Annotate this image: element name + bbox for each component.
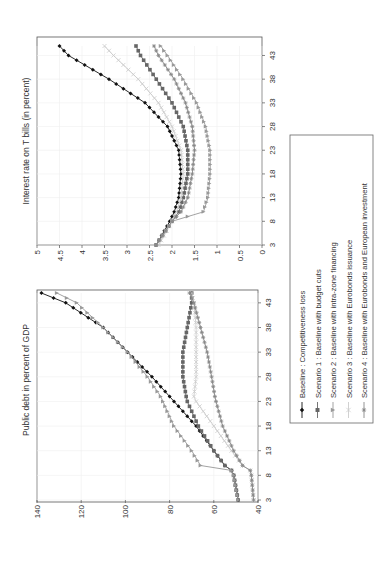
debt-chart-title: Public debt in percent of GDP: [21, 324, 31, 436]
legend-label: Scenario 2 : Baseline with intra-zone fi…: [329, 242, 338, 398]
period-tick-label: 18: [268, 169, 277, 178]
period-tick-label: 33: [264, 347, 273, 356]
period-tick-label: 28: [264, 372, 273, 381]
value-tick-label: 5: [33, 249, 42, 254]
legend-item: Scenario 3 : Baseline with Eurobonds iss…: [345, 240, 354, 418]
period-tick-label: 33: [268, 98, 277, 107]
period-tick-label: 3: [264, 497, 273, 502]
period-tick-label: 28: [268, 122, 277, 131]
interest-value-ticks: 00.511.522.533.544.55: [33, 245, 267, 261]
period-tick-label: 8: [268, 219, 277, 224]
figure: 00.511.522.533.544.55 3813182328333843 I…: [0, 0, 389, 573]
legend-item: Scenario 1 : Baseline with budget cuts: [314, 269, 323, 418]
legend-item: Baseline : Competitiveness loss: [298, 291, 307, 418]
period-tick-label: 23: [268, 145, 277, 154]
legend: Baseline : Competitiveness lossScenario …: [290, 135, 373, 423]
legend-label: Baseline : Competitiveness loss: [298, 291, 307, 398]
debt-period-ticks: 3813182328333843: [258, 298, 273, 502]
public-debt-chart: 406080100120140 3813182328333843 Public …: [21, 290, 273, 518]
period-tick-label: 43: [264, 298, 273, 307]
value-tick-label: 3.5: [101, 249, 110, 261]
value-tick-label: 1: [213, 249, 222, 254]
value-tick-label: 4: [78, 249, 87, 254]
legend-item: Scenario 4 : Baseline with Eurobonds and…: [360, 182, 369, 418]
value-tick-label: 100: [121, 504, 130, 518]
charts-canvas: 00.511.522.533.544.55 3813182328333843 I…: [0, 0, 389, 573]
debt-value-ticks: 406080100120140: [33, 500, 263, 518]
legend-label: Scenario 1 : Baseline with budget cuts: [314, 269, 323, 398]
value-tick-label: 140: [33, 504, 42, 518]
legend-item: Scenario 2 : Baseline with intra-zone fi…: [329, 242, 338, 418]
period-tick-label: 8: [264, 473, 273, 478]
value-tick-label: 0: [258, 249, 267, 254]
value-tick-label: 120: [77, 504, 86, 518]
legend-label: Scenario 4 : Baseline with Eurobonds and…: [360, 182, 369, 398]
period-tick-label: 38: [264, 323, 273, 332]
value-tick-label: 1.5: [191, 249, 200, 261]
debt-plot-area: [37, 290, 258, 502]
period-tick-label: 18: [264, 421, 273, 430]
value-tick-label: 2.5: [146, 249, 155, 261]
legend-label: Scenario 3 : Baseline with Eurobonds iss…: [345, 240, 354, 398]
value-tick-label: 3: [123, 249, 132, 254]
interest-chart-title: Interest rate on T bills (in percent): [21, 77, 31, 204]
value-tick-label: 60: [210, 504, 219, 513]
period-tick-label: 38: [268, 74, 277, 83]
period-tick-label: 43: [268, 50, 277, 59]
value-tick-label: 4.5: [56, 249, 65, 261]
period-tick-label: 23: [264, 396, 273, 405]
period-tick-label: 13: [264, 446, 273, 455]
period-tick-label: 13: [268, 193, 277, 202]
period-tick-label: 3: [268, 242, 277, 247]
value-tick-label: 2: [168, 249, 177, 254]
interest-rate-chart: 00.511.522.533.544.55 3813182328333843 I…: [21, 37, 277, 261]
value-tick-label: 80: [166, 504, 175, 513]
interest-period-ticks: 3813182328333843: [262, 50, 277, 247]
value-tick-label: 0.5: [236, 249, 245, 261]
value-tick-label: 40: [254, 504, 263, 513]
